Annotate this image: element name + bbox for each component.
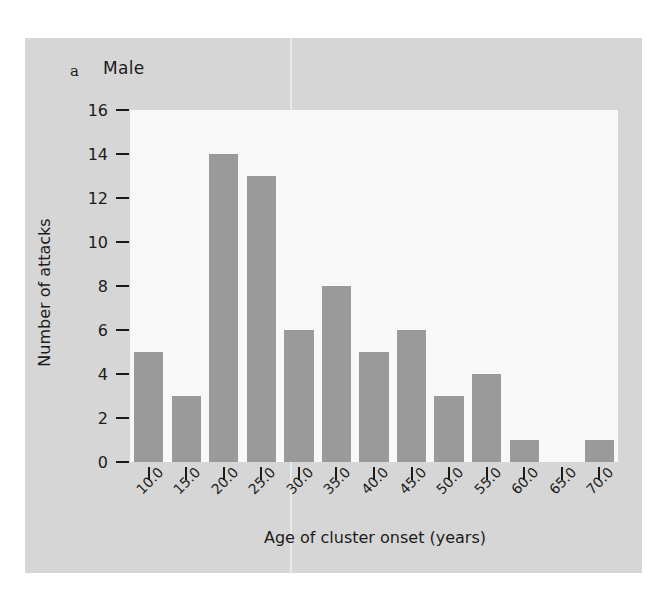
bar [134, 352, 163, 462]
y-axis-tick-label: 10 [62, 233, 108, 252]
y-axis-tick [116, 461, 129, 463]
y-axis-tick [116, 153, 129, 155]
y-axis-tick-label: 0 [62, 453, 108, 472]
bar [247, 176, 276, 462]
y-axis-tick [116, 417, 129, 419]
y-axis-tick [116, 329, 129, 331]
bar [172, 396, 201, 462]
bars-layer [130, 110, 618, 462]
y-axis-tick [116, 285, 129, 287]
y-axis-tick-label: 16 [62, 101, 108, 120]
bar [585, 440, 614, 462]
y-axis-tick [116, 197, 129, 199]
bar [322, 286, 351, 462]
y-axis-tick-label: 12 [62, 189, 108, 208]
bar [472, 374, 501, 462]
plot-area [130, 110, 618, 462]
y-axis-tick-label: 6 [62, 321, 108, 340]
y-axis-tick [116, 109, 129, 111]
y-axis-title: Number of attacks [35, 183, 54, 403]
bar [209, 154, 238, 462]
bar [510, 440, 539, 462]
y-axis-tick [116, 241, 129, 243]
x-axis-title: Age of cluster onset (years) [130, 528, 620, 547]
bar [397, 330, 426, 462]
y-axis-tick [116, 373, 129, 375]
bar [284, 330, 313, 462]
y-axis-tick-label: 14 [62, 145, 108, 164]
chart-title: Male [103, 58, 144, 78]
y-axis-tick-label: 8 [62, 277, 108, 296]
panel-letter: a [70, 62, 79, 80]
y-axis-tick-label: 2 [62, 409, 108, 428]
y-axis-tick-label: 4 [62, 365, 108, 384]
bar [359, 352, 388, 462]
bar [434, 396, 463, 462]
